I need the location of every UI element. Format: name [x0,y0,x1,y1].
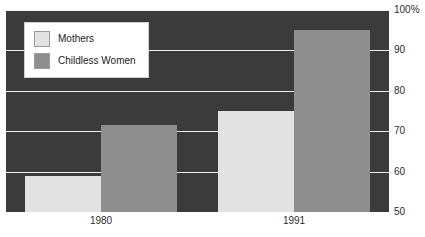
y-tick-label: 80 [394,86,405,96]
legend-label-childless-women: Childless Women [58,56,136,66]
y-tick-label: 90 [394,45,405,55]
chart-legend: Mothers Childless Women [24,22,149,78]
legend-swatch-mothers [34,31,50,47]
y-tick-mark [389,131,393,132]
bar-1991-mothers [218,111,294,212]
y-tick-mark [389,172,393,173]
y-tick-label: 70 [394,126,405,136]
legend-item-mothers: Mothers [34,30,136,48]
y-tick-label: 60 [394,167,405,177]
y-tick-label: 50 [394,207,405,217]
y-axis: 100%9080706050 [389,0,425,237]
legend-swatch-childless-women [34,53,50,69]
bar-1980-childless-women [101,125,177,212]
bar-1980-mothers [25,176,101,212]
x-tick-label-1980: 1980 [25,216,177,226]
y-tick-mark [389,50,393,51]
bar-chart: 100%9080706050 19801991 Mothers Childles… [0,0,425,237]
y-tick-label: 100% [394,5,420,15]
legend-item-childless-women: Childless Women [34,52,136,70]
x-tick-label-1991: 1991 [218,216,370,226]
y-tick-mark [389,91,393,92]
legend-label-mothers: Mothers [58,34,94,44]
bar-1991-childless-women [294,30,370,212]
gridline [6,10,389,11]
